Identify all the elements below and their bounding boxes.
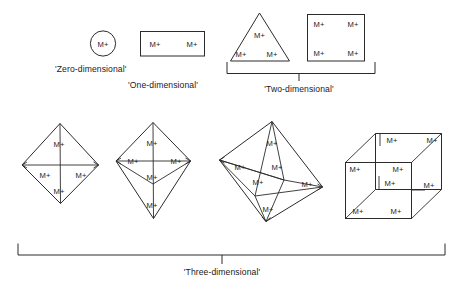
site-label: M+ <box>150 40 161 49</box>
caption-three-dimensional: 'Three-dimensional' <box>184 267 261 277</box>
site-label: M+ <box>235 163 246 172</box>
site-label: M+ <box>314 20 325 29</box>
shape-tetrahedron-four-sites: M+ M+ M+ M+ <box>22 124 99 204</box>
caption-one-dimensional: 'One-dimensional' <box>128 80 198 90</box>
shape-triangle-three-sites: M+ M+ M+ <box>231 13 290 61</box>
site-label: M+ <box>272 163 283 172</box>
site-label: M+ <box>254 31 265 40</box>
site-label: M+ <box>385 179 396 188</box>
site-label: M+ <box>187 40 198 49</box>
site-label: M+ <box>350 165 361 174</box>
site-label: M+ <box>263 205 274 214</box>
site-label: M+ <box>98 40 109 49</box>
shape-circle-single-site: M+ <box>90 31 115 56</box>
bracket-three-dimensional <box>18 244 445 265</box>
site-label: M+ <box>236 50 247 59</box>
site-label: M+ <box>391 207 402 216</box>
dimensionality-diagram: M+ 'Zero-dimensional' M+ M+ 'One-dimensi… <box>0 0 463 290</box>
site-label: M+ <box>353 207 364 216</box>
shape-rectangle-two-sites: M+ M+ <box>141 32 205 57</box>
site-label: M+ <box>40 171 51 180</box>
site-label: M+ <box>54 140 65 149</box>
site-label: M+ <box>76 171 87 180</box>
site-label: M+ <box>348 49 359 58</box>
site-label: M+ <box>253 178 264 187</box>
site-label: M+ <box>54 187 65 196</box>
site-label: M+ <box>314 49 325 58</box>
site-label: M+ <box>393 165 404 174</box>
site-label: M+ <box>387 136 398 145</box>
site-label: M+ <box>267 50 278 59</box>
cube-edge-tl <box>346 134 376 163</box>
site-label: M+ <box>424 181 435 190</box>
caption-zero-dimensional: 'Zero-dimensional' <box>55 64 127 74</box>
site-label: M+ <box>427 136 438 145</box>
site-label: M+ <box>348 20 359 29</box>
shape-octahedron-six-sites: M+ M+ M+ M+ M+ M+ <box>220 122 323 222</box>
octahedron-edge-c <box>266 180 284 222</box>
site-label: M+ <box>302 180 313 189</box>
shape-trigonal-bipyramid-five-sites: M+ M+ M+ M+ M+ <box>116 123 191 219</box>
site-label: M+ <box>128 157 139 166</box>
site-label: M+ <box>147 173 158 182</box>
shape-square-four-sites: M+ M+ M+ M+ <box>308 15 365 62</box>
shape-cube-eight-sites: M+ M+ M+ M+ M+ M+ M+ M+ <box>346 134 442 219</box>
caption-two-dimensional: 'Two-dimensional' <box>264 84 334 94</box>
site-label: M+ <box>267 139 278 148</box>
site-label: M+ <box>147 139 158 148</box>
site-label: M+ <box>171 157 182 166</box>
bracket-two-dimensional <box>227 62 375 81</box>
cube-edge-br <box>412 190 442 219</box>
site-label: M+ <box>147 201 158 210</box>
